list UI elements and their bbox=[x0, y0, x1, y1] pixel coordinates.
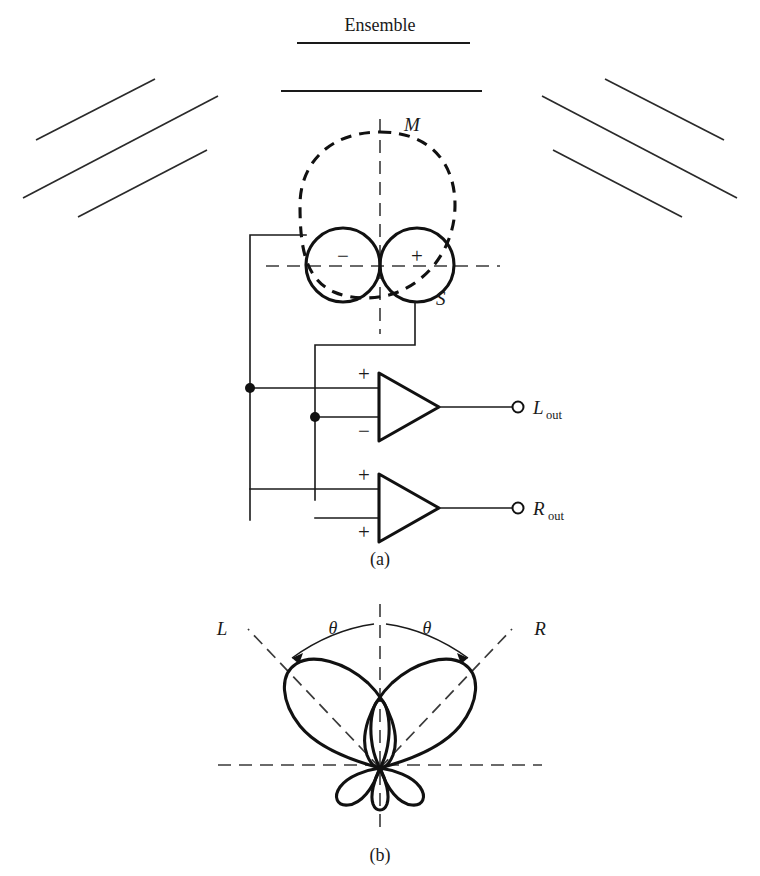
left-output-letter: L bbox=[532, 397, 544, 418]
amp-top-triangle bbox=[379, 373, 439, 441]
mid-pattern-label: M bbox=[403, 114, 421, 135]
figure-root: Ensemble − + M S bbox=[0, 0, 760, 876]
amp-top-minus-sign: − bbox=[358, 419, 370, 443]
angle-label-left: θ bbox=[329, 618, 338, 638]
right-main-lobe bbox=[365, 659, 476, 768]
figure-heading: Ensemble bbox=[345, 15, 416, 35]
junction-dot-mid bbox=[245, 383, 255, 393]
right-axis-ray bbox=[380, 629, 512, 768]
amp-top-plus-sign: + bbox=[358, 362, 370, 386]
mid-signal-bus bbox=[250, 235, 306, 520]
right-output-label: R out bbox=[532, 498, 565, 523]
right-output-terminal bbox=[513, 503, 524, 514]
junction-dot-side bbox=[310, 412, 320, 422]
figure-canvas: Ensemble − + M S bbox=[0, 0, 760, 876]
panel-a-caption: (a) bbox=[370, 549, 390, 570]
amp-bottom-plus-bottom-sign: + bbox=[358, 520, 370, 544]
amp-bottom-triangle bbox=[379, 474, 439, 542]
right-output-letter: R bbox=[532, 498, 545, 519]
left-output-subscript: out bbox=[546, 408, 563, 422]
left-main-lobe bbox=[284, 659, 395, 768]
right-channel-label: R bbox=[533, 618, 546, 639]
left-channel-label: L bbox=[216, 618, 228, 639]
panel-b-caption: (b) bbox=[370, 845, 391, 866]
angle-label-right: θ bbox=[423, 618, 432, 638]
mid-cardioid-pattern bbox=[300, 132, 455, 298]
right-output-subscript: out bbox=[548, 509, 565, 523]
left-output-terminal bbox=[513, 402, 524, 413]
side-negative-sign: − bbox=[337, 244, 349, 268]
hatch-group-left bbox=[23, 79, 218, 217]
side-positive-sign: + bbox=[411, 244, 423, 268]
left-output-label: L out bbox=[532, 397, 563, 422]
side-pattern-label: S bbox=[436, 288, 446, 309]
amp-bottom-plus-top-sign: + bbox=[358, 463, 370, 487]
left-axis-ray bbox=[248, 629, 380, 768]
hatch-group-right bbox=[542, 79, 737, 217]
